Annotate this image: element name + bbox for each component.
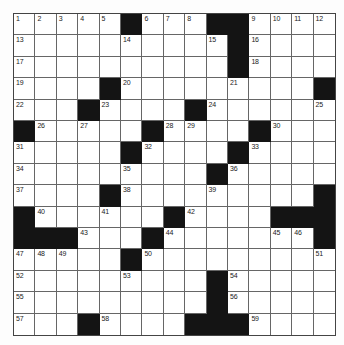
grid-cell[interactable]: 20 [121, 78, 142, 99]
grid-cell[interactable] [207, 249, 228, 270]
grid-cell[interactable] [314, 35, 335, 56]
grid-cell[interactable] [292, 292, 313, 313]
grid-cell[interactable] [35, 164, 56, 185]
grid-cell[interactable] [228, 121, 249, 142]
grid-cell[interactable] [57, 121, 78, 142]
grid-cell[interactable] [164, 292, 185, 313]
grid-cell[interactable]: 25 [314, 100, 335, 121]
grid-cell[interactable] [271, 249, 292, 270]
grid-cell[interactable] [228, 228, 249, 249]
grid-cell[interactable]: 35 [121, 164, 142, 185]
grid-cell[interactable] [207, 142, 228, 163]
grid-cell[interactable] [100, 292, 121, 313]
grid-cell[interactable] [292, 142, 313, 163]
grid-cell[interactable]: 28 [164, 121, 185, 142]
grid-cell[interactable] [142, 35, 163, 56]
grid-cell[interactable]: 50 [142, 249, 163, 270]
grid-cell[interactable] [57, 35, 78, 56]
grid-cell[interactable] [185, 78, 206, 99]
grid-cell[interactable] [185, 292, 206, 313]
grid-cell[interactable] [78, 292, 99, 313]
grid-cell[interactable] [78, 57, 99, 78]
grid-cell[interactable]: 23 [100, 100, 121, 121]
grid-cell[interactable] [271, 164, 292, 185]
grid-cell[interactable] [207, 57, 228, 78]
grid-cell[interactable] [121, 207, 142, 228]
grid-cell[interactable] [249, 249, 270, 270]
grid-cell[interactable] [35, 78, 56, 99]
grid-cell[interactable] [185, 142, 206, 163]
grid-cell[interactable] [314, 57, 335, 78]
grid-cell[interactable] [292, 78, 313, 99]
grid-cell[interactable] [57, 185, 78, 206]
grid-cell[interactable]: 8 [185, 14, 206, 35]
grid-cell[interactable] [164, 314, 185, 335]
grid-cell[interactable]: 7 [164, 14, 185, 35]
grid-cell[interactable]: 39 [207, 185, 228, 206]
grid-cell[interactable] [207, 228, 228, 249]
grid-cell[interactable] [121, 57, 142, 78]
grid-cell[interactable] [271, 100, 292, 121]
grid-cell[interactable] [292, 100, 313, 121]
grid-cell[interactable]: 19 [14, 78, 35, 99]
grid-cell[interactable] [57, 292, 78, 313]
grid-cell[interactable]: 57 [14, 314, 35, 335]
grid-cell[interactable] [121, 314, 142, 335]
grid-cell[interactable] [164, 164, 185, 185]
grid-cell[interactable] [292, 35, 313, 56]
grid-cell[interactable] [314, 121, 335, 142]
grid-cell[interactable] [78, 164, 99, 185]
grid-cell[interactable]: 26 [35, 121, 56, 142]
grid-cell[interactable] [228, 100, 249, 121]
grid-cell[interactable] [57, 142, 78, 163]
grid-cell[interactable]: 30 [271, 121, 292, 142]
grid-cell[interactable] [100, 121, 121, 142]
grid-cell[interactable]: 31 [14, 142, 35, 163]
grid-cell[interactable] [35, 57, 56, 78]
grid-cell[interactable]: 37 [14, 185, 35, 206]
grid-cell[interactable]: 15 [207, 35, 228, 56]
grid-cell[interactable] [100, 164, 121, 185]
grid-cell[interactable]: 17 [14, 57, 35, 78]
grid-cell[interactable] [121, 228, 142, 249]
grid-cell[interactable] [142, 164, 163, 185]
grid-cell[interactable] [292, 271, 313, 292]
grid-cell[interactable]: 29 [185, 121, 206, 142]
grid-cell[interactable] [249, 164, 270, 185]
grid-cell[interactable] [164, 271, 185, 292]
grid-cell[interactable]: 51 [314, 249, 335, 270]
grid-cell[interactable]: 36 [228, 164, 249, 185]
grid-cell[interactable] [314, 292, 335, 313]
grid-cell[interactable] [57, 271, 78, 292]
grid-cell[interactable] [249, 228, 270, 249]
grid-cell[interactable] [57, 314, 78, 335]
grid-cell[interactable] [271, 292, 292, 313]
grid-cell[interactable] [292, 249, 313, 270]
grid-cell[interactable] [185, 228, 206, 249]
grid-cell[interactable] [35, 35, 56, 56]
grid-cell[interactable] [271, 142, 292, 163]
grid-cell[interactable] [57, 164, 78, 185]
grid-cell[interactable]: 6 [142, 14, 163, 35]
grid-cell[interactable] [142, 292, 163, 313]
grid-cell[interactable]: 45 [271, 228, 292, 249]
grid-cell[interactable] [292, 185, 313, 206]
grid-cell[interactable] [185, 185, 206, 206]
grid-cell[interactable] [185, 249, 206, 270]
grid-cell[interactable] [142, 185, 163, 206]
grid-cell[interactable]: 53 [121, 271, 142, 292]
grid-cell[interactable] [164, 249, 185, 270]
grid-cell[interactable]: 38 [121, 185, 142, 206]
grid-cell[interactable]: 55 [14, 292, 35, 313]
grid-cell[interactable] [121, 121, 142, 142]
grid-cell[interactable]: 42 [185, 207, 206, 228]
grid-cell[interactable] [314, 164, 335, 185]
grid-cell[interactable]: 2 [35, 14, 56, 35]
grid-cell[interactable] [271, 35, 292, 56]
grid-cell[interactable]: 58 [100, 314, 121, 335]
grid-cell[interactable] [35, 314, 56, 335]
grid-cell[interactable] [78, 142, 99, 163]
grid-cell[interactable] [228, 207, 249, 228]
grid-cell[interactable] [271, 185, 292, 206]
grid-cell[interactable]: 48 [35, 249, 56, 270]
